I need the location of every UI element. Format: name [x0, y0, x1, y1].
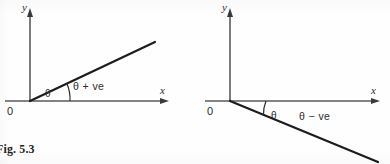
- y-axis-arrowhead: [227, 8, 233, 17]
- y-axis-label: y: [21, 1, 27, 13]
- origin-label: 0: [7, 105, 13, 117]
- x-axis-label: x: [159, 84, 165, 96]
- figure-caption: Fig. 5.3: [0, 141, 35, 157]
- y-axis-label: y: [221, 1, 227, 13]
- figure-page: y x 0 θ θ + ve y x 0 θ θ − ve Fig. 5.3: [0, 0, 390, 164]
- diagram-positive-angle: y x 0 θ θ + ve: [0, 0, 195, 164]
- x-axis-label: x: [370, 84, 376, 96]
- angle-symbol-label: θ: [45, 88, 51, 99]
- x-axis-arrowhead: [160, 98, 169, 104]
- diagram-negative-angle: y x 0 θ θ − ve: [195, 0, 390, 164]
- angle-arc: [263, 101, 266, 116]
- angle-sign-label: θ + ve: [73, 80, 104, 92]
- angle-sign-label: θ − ve: [299, 110, 330, 122]
- angle-arc: [67, 83, 70, 101]
- x-axis-arrowhead: [371, 98, 380, 104]
- y-axis-arrowhead: [27, 8, 33, 17]
- angle-symbol-label: θ: [271, 110, 277, 121]
- origin-label: 0: [207, 105, 213, 117]
